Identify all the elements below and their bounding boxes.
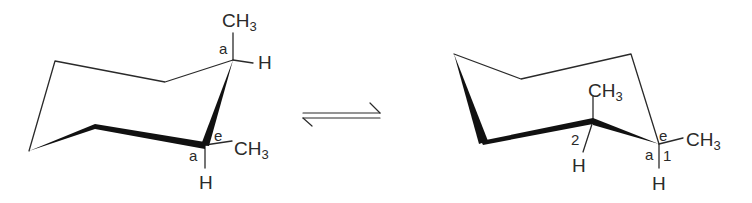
left-bottom-axial-tag: a <box>189 148 197 163</box>
left-wedge-front-left <box>29 124 95 151</box>
right-c2-methyl-label: CH3 <box>588 81 623 103</box>
left-bold-front <box>95 124 205 149</box>
left-bottom-methyl-label: CH3 <box>234 139 269 161</box>
right-c1-methyl-label: CH3 <box>686 130 721 152</box>
right-wedge-left <box>454 54 488 144</box>
left-bottom-h-label: H <box>199 173 213 192</box>
left-top-h-label: H <box>258 53 272 72</box>
right-c1-eq-tag: e <box>659 128 667 143</box>
chair-structures <box>0 0 752 203</box>
right-c2-number: 2 <box>571 132 579 147</box>
right-c2-h-label: H <box>572 156 586 175</box>
right-c1-axial-tag: a <box>645 147 653 162</box>
right-c1-number: 1 <box>663 148 671 163</box>
right-wedge-front-right <box>593 118 659 144</box>
equilibrium-arrow-icon <box>303 103 380 126</box>
diagram-canvas: CH3 a H e CH3 a H CH3 2 H e CH3 a 1 H <box>0 0 752 203</box>
right-c1-h-label: H <box>652 174 666 193</box>
left-top-h-bond <box>233 60 253 63</box>
left-bottom-eq-tag: e <box>214 128 222 143</box>
right-c2-h-bond <box>583 121 593 152</box>
left-top-axial-tag: a <box>219 41 227 56</box>
left-top-methyl-label: CH3 <box>222 11 257 33</box>
